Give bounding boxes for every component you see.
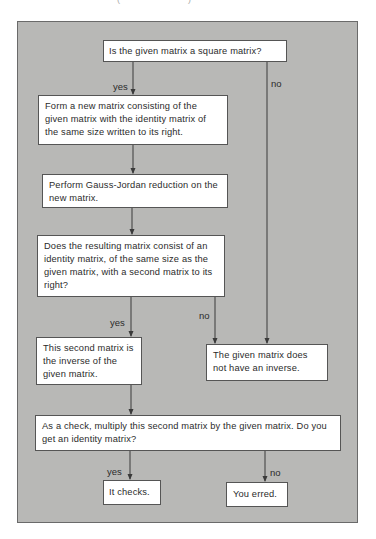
node-no-inverse: The given matrix does not have an invers…: [206, 344, 328, 381]
label-identity-yes: yes: [110, 317, 125, 328]
label-square-no: no: [271, 78, 282, 89]
label-check-yes: yes: [107, 466, 122, 477]
label-square-yes: yes: [113, 81, 128, 92]
node-it-checks: It checks.: [103, 480, 161, 505]
label-identity-no: no: [199, 310, 210, 321]
node-identity-check-question: Does the resulting matrix consist of an …: [37, 235, 225, 297]
node-is-inverse: This second matrix is the inverse of the…: [36, 337, 142, 385]
node-multiply-check-question: As a check, multiply this second matrix …: [35, 415, 341, 451]
node-form-augmented-matrix: Form a new matrix consisting of the give…: [38, 95, 228, 145]
node-is-square-question: Is the given matrix a square matrix?: [103, 40, 287, 62]
node-gauss-jordan-reduction: Perform Gauss-Jordan reduction on the ne…: [42, 174, 228, 208]
node-you-erred: You erred.: [226, 482, 288, 507]
label-check-no: no: [270, 467, 281, 478]
